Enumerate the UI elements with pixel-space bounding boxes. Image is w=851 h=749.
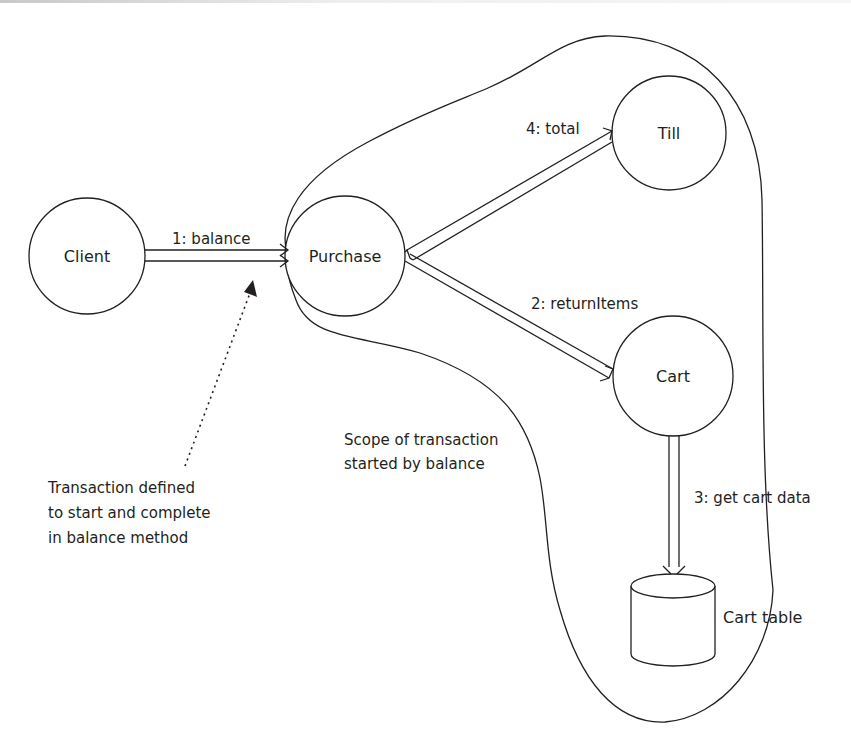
scope-label-line1: Scope of transaction	[344, 431, 498, 449]
node-client[interactable]: Client	[29, 198, 145, 314]
client-label: Client	[64, 247, 110, 266]
scope-label: Scope of transaction started by balance	[344, 431, 498, 473]
message-arrow-get-cart-data: 3: get cart data	[663, 436, 811, 577]
cart-table-label: Cart table	[723, 608, 802, 627]
annotation-line3: in balance method	[48, 529, 188, 547]
till-label: Till	[657, 124, 681, 143]
node-cart-table[interactable]: Cart table	[631, 574, 802, 666]
annotation-pointer	[185, 280, 257, 466]
message-label-balance: 1: balance	[172, 230, 250, 248]
scope-label-line2: started by balance	[344, 455, 485, 473]
arrowhead-icon	[244, 280, 257, 297]
message-label-return-items: 2: returnItems	[531, 295, 638, 313]
message-label-get-cart-data: 3: get cart data	[694, 489, 811, 507]
message-arrow-return-items: 2: returnItems	[405, 254, 638, 381]
message-arrow-total: 4: total	[405, 120, 612, 260]
node-purchase[interactable]: Purchase	[285, 196, 405, 316]
node-cart[interactable]: Cart	[613, 316, 733, 436]
cart-label: Cart	[656, 367, 690, 386]
message-arrow-balance: 1: balance	[145, 230, 288, 267]
annotation-line1: Transaction defined	[47, 479, 195, 497]
transaction-scope-diagram: Client Purchase Till Cart 1: balance 4: …	[0, 0, 851, 749]
annotation-line2: to start and complete	[48, 504, 211, 522]
cylinder-top	[631, 574, 715, 598]
node-till[interactable]: Till	[612, 76, 726, 190]
message-label-total: 4: total	[526, 120, 580, 138]
annotation-note: Transaction defined to start and complet…	[47, 479, 211, 547]
purchase-label: Purchase	[309, 247, 382, 266]
